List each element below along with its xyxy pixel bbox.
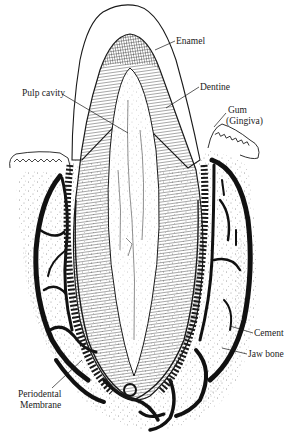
label-cement: Cement [254,328,284,338]
label-pulp-cavity: Pulp cavity [22,88,65,98]
label-jaw-bone: Jaw bone [248,349,284,359]
tooth-section-diagram: Enamel Dentine Pulp cavity Gum (Gingiva)… [0,0,290,441]
label-dentine: Dentine [200,82,230,92]
label-gingiva: (Gingiva) [226,116,263,127]
label-membrane: Membrane [20,400,61,410]
label-gum: Gum [228,105,248,115]
label-periodental: Periodental [18,389,62,399]
label-enamel: Enamel [176,36,205,46]
